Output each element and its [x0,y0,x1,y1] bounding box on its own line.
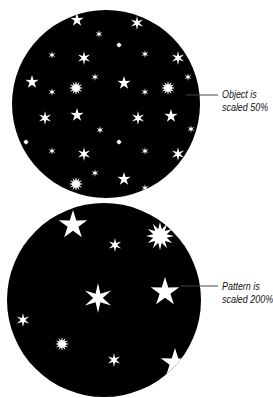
bottom-panel [7,203,218,397]
callout-pattern-line2: scaled 200% [222,293,273,306]
top-panel [12,10,218,198]
object-circle-scaled-50 [12,10,200,198]
callout-object-line1: Object is [222,88,268,101]
callout-pattern-scaled: Pattern is scaled 200% [222,280,273,306]
callout-pattern-line1: Pattern is [222,280,273,293]
callout-object-scaled: Object is scaled 50% [222,88,268,114]
callout-object-line2: scaled 50% [222,101,268,114]
pattern-scaling-diagram [0,0,273,398]
